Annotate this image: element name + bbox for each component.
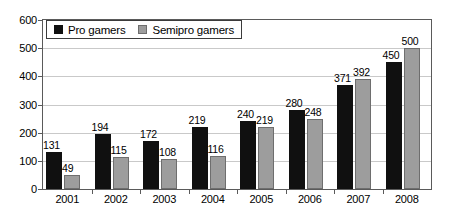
x-tick-label-2002: 2002 [92, 193, 141, 205]
bar-value-label-pro-2005: 240 [237, 109, 254, 120]
bar-pro-2002 [95, 134, 111, 189]
bar-group: 450500 [383, 20, 432, 189]
bar-value-label-semipro-2001: 49 [62, 163, 73, 174]
bar-value-label-semipro-2005: 219 [256, 115, 273, 126]
x-tick-label-2004: 2004 [189, 193, 238, 205]
x-tick-mark-2007 [334, 190, 335, 194]
bar-value-label-pro-2006: 280 [286, 98, 303, 109]
bar-value-label-pro-2007: 371 [334, 73, 351, 84]
x-tick-mark-2003 [140, 190, 141, 194]
bar-value-label-pro-2003: 172 [140, 129, 157, 140]
x-tick-mark-2005 [237, 190, 238, 194]
bar-pro-2007 [337, 85, 353, 189]
bar-group: 194115 [92, 20, 141, 189]
bar-value-label-pro-2001: 131 [43, 140, 60, 151]
bar-chart: 0100200300400500600 13149194115172108219… [0, 0, 449, 222]
y-tick-label-300: 300 [4, 100, 37, 111]
x-tick-label-2001: 2001 [43, 193, 92, 205]
bar-semipro-2005 [258, 127, 274, 189]
y-tick-label-200: 200 [4, 128, 37, 139]
bar-semipro-2007 [355, 79, 371, 189]
legend-entry-pro: Pro gamers [54, 24, 125, 36]
bar-group: 280248 [286, 20, 335, 189]
x-tick-mark-2004 [189, 190, 190, 194]
bar-group: 219116 [189, 20, 238, 189]
x-axis: 20012002200320042005200620072008 [43, 193, 431, 213]
legend-label: Pro gamers [68, 24, 125, 36]
bar-pro-2003 [143, 141, 159, 189]
y-tick-label-0: 0 [4, 184, 37, 195]
x-tick-label-2008: 2008 [383, 193, 432, 205]
bar-group: 240219 [237, 20, 286, 189]
bar-group: 172108 [140, 20, 189, 189]
bar-value-label-semipro-2003: 108 [159, 147, 176, 158]
x-tick-label-2007: 2007 [334, 193, 383, 205]
bar-pro-2001 [46, 152, 62, 189]
bar-semipro-2004 [210, 156, 226, 189]
bar-value-label-semipro-2007: 392 [353, 67, 370, 78]
chart-legend: Pro gamersSemipro gamers [46, 20, 242, 39]
bar-semipro-2002 [113, 157, 129, 189]
x-tick-label-2003: 2003 [140, 193, 189, 205]
bar-value-label-semipro-2004: 116 [208, 144, 224, 155]
legend-entry-semipro: Semipro gamers [138, 24, 234, 36]
legend-label: Semipro gamers [152, 24, 234, 36]
bar-group: 13149 [43, 20, 92, 189]
bar-pro-2005 [240, 121, 256, 189]
x-tick-mark-2002 [92, 190, 93, 194]
y-tick-label-400: 400 [4, 71, 37, 82]
bar-value-label-pro-2008: 450 [383, 50, 400, 61]
legend-swatch-semipro-icon [138, 25, 147, 34]
bar-value-label-semipro-2002: 115 [111, 145, 127, 156]
bar-semipro-2001 [64, 175, 80, 189]
bars-layer: 1314919411517210821911624021928024837139… [43, 20, 431, 189]
bar-pro-2004 [192, 127, 208, 189]
bar-group: 371392 [334, 20, 383, 189]
legend-swatch-pro-icon [54, 25, 63, 34]
x-tick-label-2006: 2006 [286, 193, 335, 205]
x-tick-mark-2006 [286, 190, 287, 194]
y-tick-label-500: 500 [4, 43, 37, 54]
bar-value-label-semipro-2008: 500 [402, 36, 419, 47]
bar-value-label-pro-2002: 194 [92, 122, 109, 133]
bar-semipro-2006 [307, 119, 323, 189]
bar-semipro-2003 [161, 159, 177, 189]
x-tick-label-2005: 2005 [237, 193, 286, 205]
y-tick-label-600: 600 [4, 15, 37, 26]
bar-pro-2006 [289, 110, 305, 189]
bar-value-label-semipro-2006: 248 [305, 107, 322, 118]
y-tick-label-100: 100 [4, 156, 37, 167]
bar-value-label-pro-2004: 219 [189, 115, 206, 126]
bar-semipro-2008 [404, 48, 420, 189]
bar-pro-2008 [386, 62, 402, 189]
x-tick-mark-2008 [383, 190, 384, 194]
